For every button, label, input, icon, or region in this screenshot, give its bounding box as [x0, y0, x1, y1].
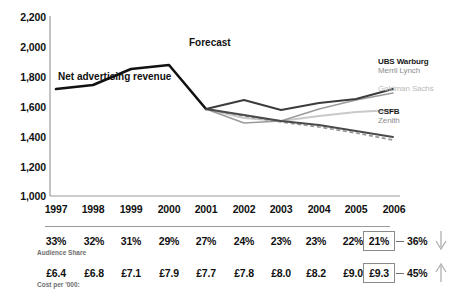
x-tick-2000: 2000	[150, 203, 188, 215]
audience-share-1998: 32%	[74, 235, 114, 247]
audience-share-2002: 24%	[224, 235, 264, 247]
x-tick-1997: 1997	[37, 203, 75, 215]
table-top-rule	[45, 226, 390, 227]
cost-per-000-1999: £7.1	[111, 267, 151, 279]
y-tick-1400: 1,400	[2, 131, 46, 143]
cost-per-000-row-label: Cost per '000:	[37, 281, 80, 288]
audience-share-connector	[396, 241, 404, 242]
cost-per-000-1997: £6.4	[36, 267, 76, 279]
y-tick-1000: 1,000	[2, 190, 46, 202]
audience-share-1999: 31%	[111, 235, 151, 247]
x-tick-2006: 2006	[375, 203, 413, 215]
x-tick-1998: 1998	[74, 203, 112, 215]
x-tick-2004: 2004	[300, 203, 338, 215]
cost-per-000-2000: £7.9	[149, 267, 189, 279]
line-chart: 2,200 2,000 1,800 1,600 1,400 1,200 1,00…	[0, 0, 455, 215]
arrow-up-icon	[434, 262, 448, 284]
cost-per-000-2003: £8.0	[261, 267, 301, 279]
chart-page: 2,200 2,000 1,800 1,600 1,400 1,200 1,00…	[0, 0, 455, 303]
annotation-net-advertising-revenue: Net advertising revenue	[58, 71, 171, 82]
cost-per-000-change: 45%	[407, 267, 427, 279]
audience-share-change: 36%	[407, 235, 427, 247]
series-ubs-warburg	[206, 89, 393, 110]
series-label-csfb: CSFB	[378, 107, 399, 116]
audience-share-2004: 23%	[296, 235, 336, 247]
x-tick-2001: 2001	[187, 203, 225, 215]
cost-per-000-2002: £7.8	[224, 267, 264, 279]
cost-per-000-2001: £7.7	[186, 267, 226, 279]
arrow-down-icon	[434, 230, 448, 252]
audience-share-2003: 23%	[261, 235, 301, 247]
cost-per-000-connector	[396, 273, 404, 274]
series-label-ubs-warburg: UBS Warburg	[378, 57, 429, 66]
audience-share-2006-highlight[interactable]: 21%	[363, 231, 395, 251]
x-tick-1999: 1999	[112, 203, 150, 215]
series-label-zenith: Zenith	[378, 116, 400, 125]
x-tick-2002: 2002	[225, 203, 263, 215]
cost-per-000-2004: £8.2	[296, 267, 336, 279]
audience-share-row-label: Audience Share	[37, 249, 86, 256]
y-tick-1200: 1,200	[2, 161, 46, 173]
cost-per-000-1998: £6.8	[74, 267, 114, 279]
x-tick-2005: 2005	[337, 203, 375, 215]
y-tick-1600: 1,600	[2, 101, 46, 113]
annotation-forecast: Forecast	[189, 37, 231, 48]
y-tick-2200: 2,200	[2, 11, 46, 23]
series-label-goldman-sachs: Goldman Sachs	[378, 84, 434, 93]
series-label-merril-lynch: Merril Lynch	[378, 66, 420, 75]
audience-share-1997: 33%	[36, 235, 76, 247]
x-tick-2003: 2003	[262, 203, 300, 215]
cost-per-000-2006-highlight[interactable]: £9.3	[363, 263, 395, 283]
series-csfb	[206, 109, 393, 137]
y-tick-2000: 2,000	[2, 41, 46, 53]
y-tick-1800: 1,800	[2, 71, 46, 83]
audience-share-2001: 27%	[186, 235, 226, 247]
audience-share-2000: 29%	[149, 235, 189, 247]
data-table: 33% 32% 31% 29% 27% 24% 23% 23% 22% 21% …	[0, 215, 455, 303]
